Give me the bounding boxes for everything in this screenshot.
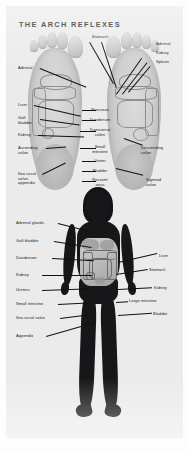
- label-kidney: Kidney: [154, 286, 167, 291]
- label-kidney: Kidney: [156, 51, 169, 56]
- label-stomach: Stomach: [82, 35, 118, 40]
- label-rectum-anus: Rectum/ anus: [82, 178, 118, 187]
- label-adrenal-glands: Adrenal glands: [16, 221, 44, 226]
- organ-bladder: [95, 277, 105, 284]
- label-small-intestine: Small intestine: [82, 145, 118, 154]
- label-bladder: Bladder: [153, 312, 167, 317]
- label-bladder: Bladder: [82, 169, 118, 174]
- toe-2-left: [57, 32, 68, 49]
- toe-4-right: [142, 35, 151, 49]
- silhouette-foot-right: [104, 402, 123, 418]
- organ-stomach: [100, 240, 114, 250]
- label-stomach: Stomach: [149, 268, 166, 273]
- label-sigmoid-colon: Sigmoid colon: [146, 178, 161, 187]
- label-liver: Liver: [18, 103, 27, 108]
- label-gall-bladder: Gall bladder: [18, 116, 32, 125]
- label-appendix: Appendix: [16, 334, 33, 339]
- content-panel: THE ARCH REFLEXES: [6, 6, 183, 438]
- label-adrenal: Adrenal: [18, 66, 32, 71]
- label-liver: Liver: [159, 254, 168, 259]
- label-gall-bladder: Gall bladder: [16, 239, 39, 244]
- silhouette-leg-right: [100, 298, 119, 408]
- toe-4-left: [38, 35, 47, 49]
- silhouette-arm-right: [119, 224, 135, 287]
- silhouette-foot-left: [75, 402, 94, 418]
- label-transverse-colon: Transverse colon: [82, 128, 118, 137]
- label-descending-colon: Descending colon: [141, 146, 163, 155]
- label-spleen: Spleen: [156, 60, 169, 65]
- organ-ileocecal-valve: [86, 272, 95, 280]
- label-kidney: Kidney: [16, 273, 29, 278]
- label-ileo-cecal-valve-appendix: Ileo-cecal valve, appendix: [18, 172, 36, 186]
- label-ureters: Ureters: [16, 288, 30, 293]
- toe-2-right: [121, 32, 132, 49]
- label-ureter: Ureter: [82, 159, 118, 164]
- page-root: THE ARCH REFLEXES: [0, 0, 189, 451]
- toe-5-left: [30, 40, 38, 52]
- label-ascending-colon: Ascending colon: [18, 146, 38, 155]
- organ-liver: [82, 239, 99, 250]
- toe-big-left: [68, 36, 83, 58]
- silhouette-arm-left: [61, 224, 77, 287]
- label-kidney: Kidney: [18, 133, 31, 138]
- label-pancreas: Pancreas: [82, 108, 118, 113]
- zone-descending-colon-right: [145, 88, 159, 136]
- label-ileo-cecal-valve: Ileo-cecal valve: [16, 316, 45, 321]
- label-adrenal: Adrenal: [156, 42, 170, 47]
- toe-3-right: [132, 32, 142, 48]
- leader-kidney-body: [42, 275, 92, 276]
- zone-ileocecal-valve-left: [42, 128, 54, 139]
- label-small-intestine: Small intestine: [16, 302, 43, 307]
- label-duodenum: Duodenum: [16, 256, 36, 261]
- zone-sigmoid-colon-right: [133, 128, 149, 141]
- label-duodenum: Duodenum: [82, 118, 118, 123]
- label-large-intestine: Large intestine: [129, 299, 157, 304]
- toe-3-left: [47, 32, 57, 48]
